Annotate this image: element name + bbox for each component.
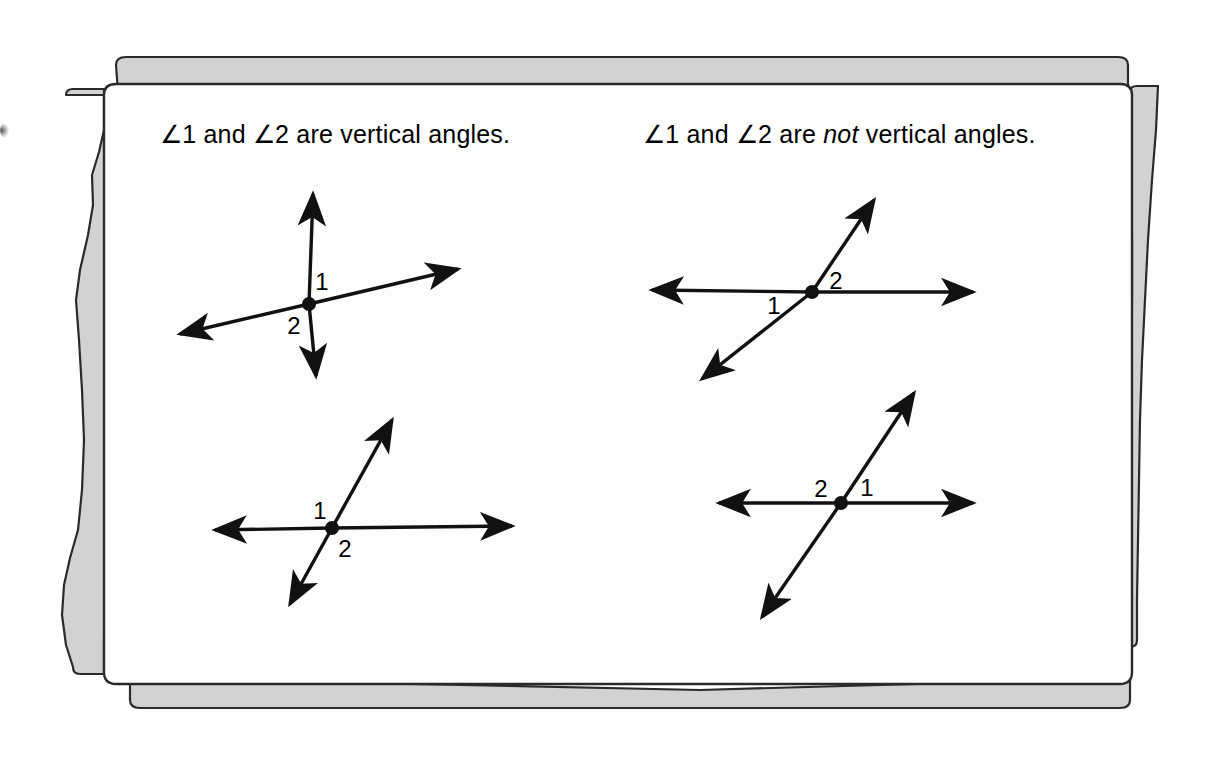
angle-label-bottom-right-1: 1 xyxy=(860,476,873,500)
angle-label-top-right-0: 2 xyxy=(829,269,842,293)
caption-right-text-before: ∠1 and ∠2 are xyxy=(643,120,823,148)
angle-label-top-left-0: 1 xyxy=(315,270,328,294)
scan-edge-smudge xyxy=(0,123,9,138)
caption-left: ∠1 and ∠2 are vertical angles. xyxy=(160,120,510,149)
angle-label-bottom-left-1: 2 xyxy=(338,537,351,561)
angle-label-top-right-1: 1 xyxy=(767,294,780,318)
caption-right-emphasis: not xyxy=(823,120,858,148)
angle-label-top-left-1: 2 xyxy=(287,314,300,338)
content-layer: ∠1 and ∠2 are vertical angles. ∠1 and ∠2… xyxy=(0,0,1206,757)
caption-right: ∠1 and ∠2 are not vertical angles. xyxy=(643,120,1036,149)
illustration-page: ∠1 and ∠2 are vertical angles. ∠1 and ∠2… xyxy=(0,0,1206,757)
caption-right-text-after: vertical angles. xyxy=(859,120,1036,148)
angle-label-bottom-right-0: 2 xyxy=(814,477,827,501)
caption-left-text: ∠1 and ∠2 are vertical angles. xyxy=(160,120,510,148)
angle-label-bottom-left-0: 1 xyxy=(313,499,326,523)
